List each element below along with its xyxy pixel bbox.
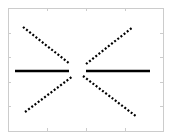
data-series (15, 27, 150, 117)
lower-left-diagonal-line (25, 76, 73, 112)
lower-right-diagonal-line (83, 76, 137, 117)
upper-right-diagonal-line (86, 27, 133, 64)
upper-left-diagonal-line (23, 27, 70, 64)
tick-marks (8, 8, 164, 132)
chart-plot (0, 0, 171, 139)
